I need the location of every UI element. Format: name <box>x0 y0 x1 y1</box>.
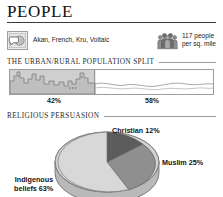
urban-rural-split-graphic <box>10 70 213 94</box>
urban-rural-heading-rule <box>159 62 216 63</box>
pie-label-indigenous: Indigenous beliefs 63% <box>14 176 53 193</box>
urban-rural-heading: THE URBAN/RURAL POPULATION SPLIT <box>7 57 154 66</box>
density-line-2: per sq. mile <box>182 40 216 48</box>
religion-section: RELIGIOUS PERSUASION Christian 12% Musli… <box>0 111 223 197</box>
religion-pie-chart: Christian 12% Muslim 25% Indigenous beli… <box>0 121 223 197</box>
pie-label-indigenous-line-2: beliefs 63% <box>14 184 53 193</box>
crowd-people-icon <box>157 31 178 50</box>
language-text: Akan, French, Kru, Voltaic <box>33 36 109 44</box>
religion-heading-row: RELIGIOUS PERSUASION <box>7 111 216 120</box>
urban-rural-labels: 42% 58% <box>9 95 214 107</box>
page-title: PEOPLE <box>7 2 223 21</box>
pie-label-muslim: Muslim 25% <box>162 159 203 168</box>
facts-row: Akan, French, Kru, Voltaic 117 pe <box>0 28 223 52</box>
title-divider <box>7 22 216 23</box>
density-line-1: 117 people <box>182 32 214 39</box>
cityscape-skyline-icon <box>10 70 95 94</box>
urban-rural-chart <box>9 69 214 95</box>
urban-rural-heading-row: THE URBAN/RURAL POPULATION SPLIT <box>7 57 216 66</box>
rural-percentage: 58% <box>145 97 159 104</box>
urban-percentage: 42% <box>47 97 61 104</box>
pie-label-christian: Christian 12% <box>112 127 160 136</box>
fact-language: Akan, French, Kru, Voltaic <box>7 31 109 50</box>
fact-population-density: 117 people per sq. mile <box>157 31 216 50</box>
speech-bubble-face-icon <box>7 31 28 50</box>
urban-rural-section: THE URBAN/RURAL POPULATION SPLIT <box>0 57 223 107</box>
religion-heading-rule <box>104 116 216 117</box>
density-text: 117 people per sq. mile <box>182 32 216 48</box>
religion-heading: RELIGIOUS PERSUASION <box>7 111 99 120</box>
